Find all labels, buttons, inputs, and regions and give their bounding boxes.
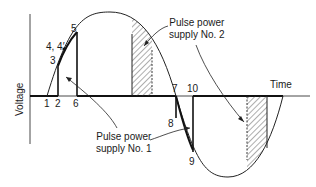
point-label-6: 6 [73, 98, 79, 109]
point-label-9: 9 [189, 156, 195, 167]
annotation-supply-2-line2: supply No. 2 [169, 29, 225, 41]
annotation-supply-2-line1: Pulse power [169, 17, 225, 29]
point-label-10: 10 [187, 83, 198, 94]
point-label-1: 1 [44, 98, 50, 109]
annotation-supply-1-line2: supply No. 1 [96, 143, 152, 155]
point-label-7: 7 [172, 83, 178, 94]
annotation-supply-2: Pulse power supply No. 2 [169, 17, 225, 40]
point-label-8: 8 [168, 118, 174, 129]
point-label-5: 5 [71, 23, 77, 34]
point-label-2: 2 [55, 98, 61, 109]
point-label-4: 4, 4′ [46, 41, 65, 52]
voltage-axis-label: Voltage [14, 83, 25, 116]
annotation-supply-1-line1: Pulse power [96, 131, 152, 143]
point-label-3: 3 [50, 55, 56, 66]
hatched-pulse-negative [247, 96, 267, 176]
time-axis-label: Time [270, 79, 292, 90]
voltage-time-diagram [0, 0, 316, 187]
annotation-supply-1: Pulse power supply No. 1 [96, 131, 152, 154]
hatched-pulse-positive [132, 10, 152, 96]
